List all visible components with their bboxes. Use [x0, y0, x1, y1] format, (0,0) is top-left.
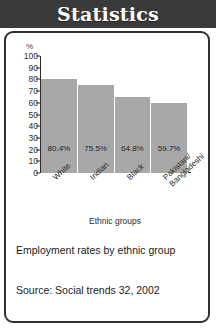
bar-value-label: 80.4%	[41, 144, 77, 153]
chart-caption: Employment rates by ethnic group	[16, 243, 194, 257]
bar-series: 80.4%75.5%64.8%59.7%	[41, 56, 188, 173]
bar-value-label: 59.7%	[151, 144, 187, 153]
statistics-card: Statistics % 1009080706050403020100 80.4…	[0, 0, 216, 328]
bar: 64.8%	[115, 97, 152, 173]
y-axis-ticks: 1009080706050403020100	[4, 33, 40, 173]
x-axis-title: Ethnic groups	[40, 216, 190, 226]
bar-chart: % 1009080706050403020100 80.4%75.5%64.8%…	[4, 33, 212, 239]
page-title: Statistics	[0, 0, 216, 28]
bar: 75.5%	[78, 85, 115, 173]
bar: 80.4%	[41, 79, 78, 173]
card-header: Statistics	[0, 0, 216, 28]
bar-value-label: 64.8%	[115, 144, 151, 153]
chart-source: Source: Social trends 32, 2002	[16, 283, 198, 297]
bar-value-label: 75.5%	[78, 144, 114, 153]
